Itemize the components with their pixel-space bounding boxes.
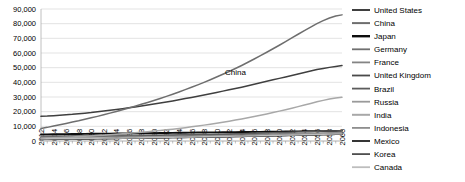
y-axis-tick-label: 10,000 [13,122,36,131]
y-axis-tick-label: 0 [32,137,36,146]
y-axis-tick-labels: 90,00080,00070,00060,00050,00040,00030,0… [13,5,36,146]
legend: United StatesChinaJapanGermanyFranceUnit… [352,6,431,172]
chart-canvas: 90,00080,00070,00060,00050,00040,00030,0… [0,0,465,182]
chart-annotations: China [225,68,246,77]
legend-item-label: China [374,19,395,28]
y-axis-tick-label: 70,000 [13,34,36,43]
y-axis-tick-label: 20,000 [13,107,36,116]
series-lines [41,15,342,140]
legend-item-label: France [374,58,399,67]
legend-item-label: Mexico [374,137,400,146]
legend-item-label: United States [374,6,422,15]
y-axis-tick-label: 80,000 [13,19,36,28]
legend-item-label: Germany [374,45,407,54]
legend-item-label: India [374,111,392,120]
series-annotation-label: China [225,68,246,77]
y-axis-tick-label: 40,000 [13,78,36,87]
series-line [41,66,342,117]
y-axis-tick-label: 50,000 [13,63,36,72]
legend-item-label: Korea [374,150,396,159]
axis-lines [41,9,342,144]
legend-item-label: Japan [374,32,396,41]
y-axis-tick-label: 90,000 [13,5,36,14]
y-axis-tick-label: 30,000 [13,93,36,102]
legend-item-label: Canada [374,163,403,172]
legend-item-label: United Kingdom [374,71,431,80]
legend-item-label: Indonesia [374,124,409,133]
gdp-projection-line-chart: 90,00080,00070,00060,00050,00040,00030,0… [0,0,465,182]
legend-item-label: Brazil [374,85,394,94]
y-axis-tick-label: 60,000 [13,49,36,58]
legend-item-label: Russia [374,98,399,107]
